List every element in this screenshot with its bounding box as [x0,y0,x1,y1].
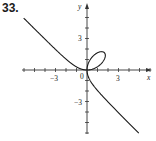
y-tick-label-3: 3 [78,34,82,43]
plot: x y 0 −3 3 3 −3 [0,0,156,141]
origin-label: 0 [80,72,84,81]
y-axis-arrow-icon [85,3,89,9]
y-tick-label-neg3: −3 [74,98,82,107]
y-axis-label: y [77,2,82,11]
x-tick-label-neg3: −3 [50,74,58,83]
x-axis-label: x [146,73,151,82]
x-tick-label-3: 3 [116,74,120,83]
x-axis-arrow-icon [146,68,152,72]
